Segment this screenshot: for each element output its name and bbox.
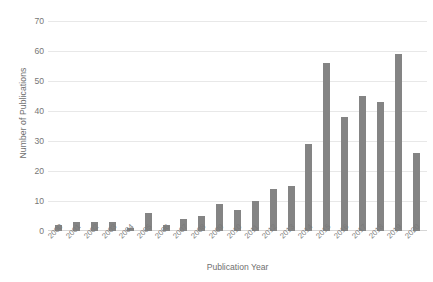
y-axis-tick-label: 0 <box>22 226 44 236</box>
bar[interactable] <box>395 54 402 231</box>
bar-slot <box>318 21 336 231</box>
bar[interactable] <box>359 96 366 231</box>
bar-slot <box>371 21 389 231</box>
bar-slot <box>86 21 104 231</box>
bar[interactable] <box>305 144 312 231</box>
bar-chart: Number of Publications 010203040506070 2… <box>0 0 433 282</box>
bar-slot <box>300 21 318 231</box>
bar-slot <box>354 21 372 231</box>
y-axis-tick-label: 10 <box>22 196 44 206</box>
plot-area <box>48 21 427 231</box>
bar-slot <box>407 21 425 231</box>
bar-slot <box>229 21 247 231</box>
bar-slot <box>246 21 264 231</box>
bar-slot <box>68 21 86 231</box>
bars-layer <box>48 21 427 231</box>
bar-slot <box>211 21 229 231</box>
bar-slot <box>389 21 407 231</box>
y-axis-tick-label: 30 <box>22 136 44 146</box>
bar-slot <box>104 21 122 231</box>
bar-slot <box>50 21 68 231</box>
bar[interactable] <box>413 153 420 231</box>
bar-slot <box>175 21 193 231</box>
x-axis-tick-labels: 2000200120022003200420052006200720082009… <box>48 231 427 261</box>
y-axis-tick-label: 70 <box>22 16 44 26</box>
bar-slot <box>121 21 139 231</box>
bar[interactable] <box>341 117 348 231</box>
x-axis-title: Publication Year <box>48 262 427 272</box>
bar-slot <box>336 21 354 231</box>
y-axis-tick-label: 60 <box>22 46 44 56</box>
x-tick-slot: 2020 <box>407 231 425 261</box>
y-axis-tick-label: 50 <box>22 76 44 86</box>
bar-slot <box>282 21 300 231</box>
bar-slot <box>139 21 157 231</box>
bar[interactable] <box>377 102 384 231</box>
y-axis-tick-label: 20 <box>22 166 44 176</box>
bar-slot <box>193 21 211 231</box>
y-axis-tick-label: 40 <box>22 106 44 116</box>
bar-slot <box>264 21 282 231</box>
y-axis-tick-labels: 010203040506070 <box>22 0 44 282</box>
bar[interactable] <box>323 63 330 231</box>
bar-slot <box>157 21 175 231</box>
